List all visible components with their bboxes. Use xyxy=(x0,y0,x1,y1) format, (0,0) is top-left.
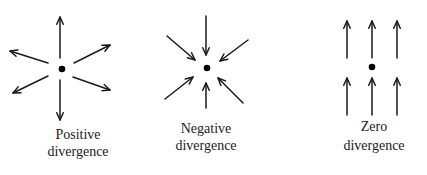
positive-label-line2: divergence xyxy=(47,144,108,159)
arrow-icon xyxy=(344,78,351,115)
zero-label-line1: Zero xyxy=(361,119,387,134)
arrow-icon xyxy=(167,36,195,60)
negative-label-line1: Negative xyxy=(181,121,232,136)
arrow-icon xyxy=(369,78,376,115)
panel-negative-divergence xyxy=(165,16,248,108)
positive-label-line1: Positive xyxy=(55,127,100,142)
arrow-icon xyxy=(74,45,110,63)
arrow-icon xyxy=(57,17,64,58)
center-point-dot xyxy=(369,64,376,71)
negative-label-line2: divergence xyxy=(175,138,236,153)
arrow-icon xyxy=(73,77,110,91)
panel-positive-divergence xyxy=(10,17,110,120)
arrow-icon xyxy=(10,50,48,63)
arrow-icon xyxy=(220,40,248,61)
arrow-icon xyxy=(165,77,193,99)
center-point-dot xyxy=(59,66,66,73)
arrow-icon xyxy=(203,16,210,55)
zero-label-line2: divergence xyxy=(343,138,404,153)
arrow-icon xyxy=(203,83,210,108)
arrow-icon xyxy=(369,21,376,58)
arrow-icon xyxy=(13,76,48,93)
panel-zero-divergence xyxy=(344,21,401,115)
center-point-dot xyxy=(204,65,211,72)
arrow-icon xyxy=(57,80,64,120)
divergence-diagram: Positive divergence Negative divergence … xyxy=(0,0,427,175)
arrow-icon xyxy=(344,21,351,58)
arrow-icon xyxy=(394,21,401,58)
arrow-icon xyxy=(394,78,401,115)
arrow-icon xyxy=(218,78,243,103)
